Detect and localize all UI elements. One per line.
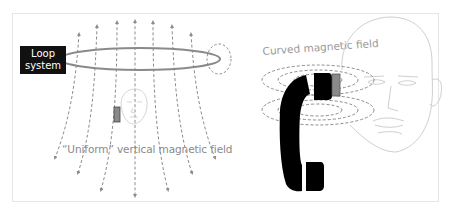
uniform-field-caption: “Uniform” vertical magnetic field [62, 143, 232, 155]
loop-system-box: Loop system [20, 46, 66, 74]
small-head-icon [121, 89, 147, 124]
hearing-aid-receiver-icon [332, 74, 340, 96]
loop-system-label-line2: system [20, 60, 66, 72]
hearing-aid-receiver-icon [114, 107, 120, 122]
loop-ring-icon [60, 48, 220, 70]
telephone-handset-icon [280, 73, 332, 191]
loop-system-label-line1: Loop [20, 48, 66, 60]
diagram-illustration [0, 0, 450, 215]
large-head-icon [342, 17, 442, 152]
